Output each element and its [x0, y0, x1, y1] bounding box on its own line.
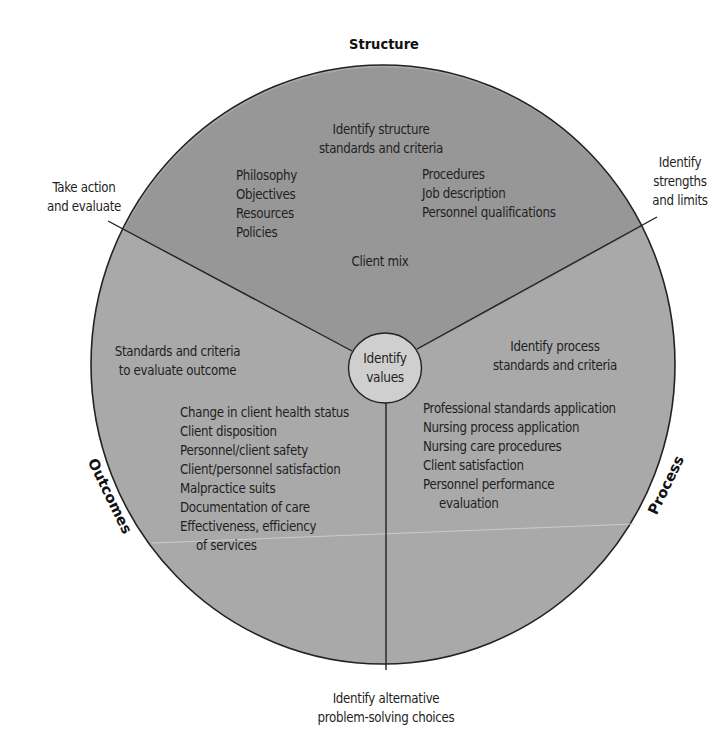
process-list: Professional standards application Nursi…: [423, 399, 616, 513]
list-item: Effectiveness, efficiency: [180, 517, 349, 536]
list-item: Documentation of care: [180, 498, 349, 517]
outcomes-heading: Standards and criteria to evaluate outco…: [100, 342, 255, 380]
process-heading-line1: Identify process: [480, 337, 630, 356]
list-item-continuation: evaluation: [423, 494, 616, 513]
list-item: Personnel/client safety: [180, 441, 349, 460]
process-heading: Identify process standards and criteria: [480, 337, 630, 375]
list-item: Nursing process application: [423, 418, 616, 437]
structure-heading-line2: standards and criteria: [281, 139, 481, 158]
spoke-label-upper-left: Take action and evaluate: [30, 178, 138, 216]
structure-heading-line1: Identify structure: [281, 120, 481, 139]
spoke-label-upper-left-line1: Take action: [30, 178, 138, 197]
list-item: Malpractice suits: [180, 479, 349, 498]
spoke-label-upper-right: Identify strengths and limits: [640, 153, 719, 210]
structure-title: Structure: [319, 35, 449, 54]
list-item: Client satisfaction: [423, 456, 616, 475]
structure-right-list: Procedures Job description Personnel qua…: [422, 165, 556, 222]
structure-left-list: Philosophy Objectives Resources Policies: [236, 166, 297, 242]
spoke-label-upper-right-line2: strengths: [640, 172, 719, 191]
list-item: Change in client health status: [180, 403, 349, 422]
list-item: Client disposition: [180, 422, 349, 441]
list-item: Professional standards application: [423, 399, 616, 418]
list-item: Policies: [236, 223, 297, 242]
process-heading-line2: standards and criteria: [480, 356, 630, 375]
spoke-label-upper-right-line1: Identify: [640, 153, 719, 172]
list-item: Personnel qualifications: [422, 203, 556, 222]
list-item: Procedures: [422, 165, 556, 184]
spoke-label-bottom-line1: Identify alternative: [296, 689, 476, 708]
list-item: Job description: [422, 184, 556, 203]
structure-bottom-item: Client mix: [330, 252, 430, 271]
spoke-label-upper-right-line3: and limits: [640, 191, 719, 210]
center-label-line1: Identify: [348, 349, 422, 368]
structure-heading: Identify structure standards and criteri…: [281, 120, 481, 158]
outcomes-heading-line1: Standards and criteria: [100, 342, 255, 361]
list-item: Nursing care procedures: [423, 437, 616, 456]
center-label: Identify values: [348, 349, 422, 387]
list-item-continuation: of services: [180, 536, 349, 555]
center-label-line2: values: [348, 368, 422, 387]
list-item: Resources: [236, 204, 297, 223]
list-item: Personnel performance: [423, 475, 616, 494]
spoke-label-bottom-line2: problem-solving choices: [296, 708, 476, 727]
spoke-label-bottom: Identify alternative problem-solving cho…: [296, 689, 476, 727]
list-item: Client/personnel satisfaction: [180, 460, 349, 479]
outcomes-list: Change in client health status Client di…: [180, 403, 349, 555]
list-item: Philosophy: [236, 166, 297, 185]
list-item: Objectives: [236, 185, 297, 204]
spoke-label-upper-left-line2: and evaluate: [30, 197, 138, 216]
outcomes-heading-line2: to evaluate outcome: [100, 361, 255, 380]
